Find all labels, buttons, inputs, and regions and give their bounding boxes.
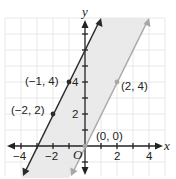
origin-label: O xyxy=(73,147,83,162)
point-label-0-0: (0, 0) xyxy=(96,130,123,142)
point-0-0 xyxy=(83,144,88,149)
x-tick-label: 4 xyxy=(146,150,153,162)
x-tick-label: −2 xyxy=(45,150,58,162)
x-axis-arrow-right-icon xyxy=(155,143,163,150)
x-axis-label: x xyxy=(163,138,170,153)
point-label-neg2-2: (−2, 2) xyxy=(11,104,45,116)
coordinate-plane: y x O −4 −2 2 4 2 4 (−2, 2) (−1, 4) (0, … xyxy=(0,0,176,179)
y-axis-label: y xyxy=(80,4,88,19)
y-tick-label: 4 xyxy=(72,76,79,88)
y-axis-arrow-up-icon xyxy=(82,20,89,28)
point-2-4 xyxy=(115,80,120,85)
y-tick-label: 2 xyxy=(72,108,78,120)
point-label-neg1-4: (−1, 4) xyxy=(25,75,59,87)
x-axis-arrow-left-icon xyxy=(7,143,15,150)
point-neg2-2 xyxy=(51,112,56,117)
point-label-2-4: (2, 4) xyxy=(121,80,148,92)
x-tick-label: 2 xyxy=(114,150,120,162)
x-tick-label: −4 xyxy=(13,150,27,162)
point-neg1-4 xyxy=(67,80,72,85)
y-axis-arrow-down-icon xyxy=(82,167,89,175)
